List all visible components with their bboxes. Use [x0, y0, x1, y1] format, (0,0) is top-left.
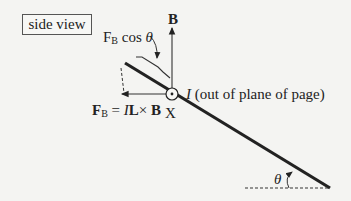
force-equation-label: FB = IL× B	[92, 103, 161, 119]
component-bracket	[136, 57, 170, 78]
b-field-label: B	[168, 12, 178, 27]
side-view-label-box: side view	[22, 14, 92, 35]
side-view-label: side view	[28, 16, 85, 33]
projection-dashed-line	[121, 68, 124, 93]
inclined-rod	[125, 63, 330, 188]
current-label: I (out of plane of page)	[186, 87, 325, 102]
axis-point-label: X	[165, 106, 176, 121]
angle-arc	[287, 172, 292, 188]
angle-theta-label: θ	[274, 172, 281, 187]
fb-cos-theta-label: FB cos θ	[103, 30, 153, 46]
